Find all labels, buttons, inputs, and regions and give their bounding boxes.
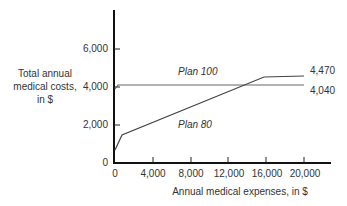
plan-80-line	[115, 76, 304, 150]
x-tick-label: 20,000	[290, 168, 321, 179]
y-axis-label-line-3: in $	[37, 94, 54, 105]
y-tick-label: 6,000	[83, 43, 108, 54]
chart: 0 2,000 4,000 6,000 0 4,000 8,000 12,000…	[0, 0, 347, 206]
x-axis-label: Annual medical expenses, in $	[172, 186, 308, 197]
y-tick-label: 0	[102, 157, 108, 168]
plan-80-label: Plan 80	[178, 119, 212, 130]
x-tick-label: 12,000	[214, 168, 245, 179]
plan-100-label: Plan 100	[178, 66, 218, 77]
y-axis-label-line-2: medical costs,	[13, 81, 76, 92]
y-tick-label: 4,000	[83, 81, 108, 92]
y-axis-label-line-1: Total annual	[18, 68, 72, 79]
x-tick-label: 8,000	[178, 168, 203, 179]
x-tick-label: 16,000	[252, 168, 283, 179]
x-tick-label: 0	[112, 168, 118, 179]
x-tick-label: 4,000	[140, 168, 165, 179]
plan-80-end-value: 4,470	[310, 65, 335, 76]
plan-100-line	[115, 85, 304, 89]
y-tick-label: 2,000	[83, 119, 108, 130]
plan-100-end-value: 4,040	[310, 85, 335, 96]
